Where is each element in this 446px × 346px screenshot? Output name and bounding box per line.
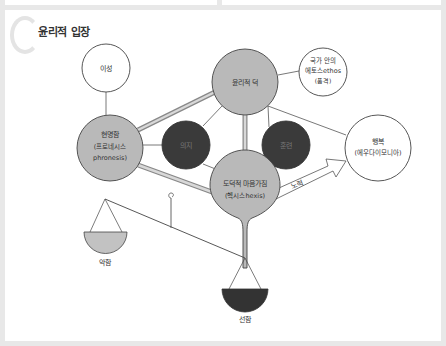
svg-text:행복: 행복: [372, 137, 385, 146]
svg-text:도덕적 마음가짐: 도덕적 마음가짐: [223, 179, 267, 188]
svg-text:의지: 의지: [180, 141, 192, 150]
svg-text:훈련: 훈련: [280, 141, 292, 150]
svg-text:(헥시스hexis): (헥시스hexis): [225, 191, 265, 200]
right-pan-label: 선함: [239, 315, 252, 324]
node-ethos: 국가 안의 에토스ethos (품격): [299, 48, 347, 96]
svg-text:(에우다이모니아): (에우다이모니아): [354, 148, 401, 157]
node-moral-disposition: 도덕적 마음가짐 (헥시스hexis): [210, 150, 280, 268]
svg-text:국가 안의: 국가 안의: [310, 56, 336, 65]
hook-icon: [169, 193, 174, 198]
svg-text:phronesis): phronesis): [93, 154, 127, 162]
svg-text:(품격): (품격): [315, 77, 332, 85]
right-pan: [222, 289, 268, 312]
node-happiness: 행복 (에우다이모니아): [345, 115, 411, 181]
svg-text:(프로네시스: (프로네시스: [94, 142, 127, 151]
left-pan: [84, 232, 127, 254]
svg-text:에토스ethos: 에토스ethos: [305, 66, 342, 75]
ethics-diagram: 노력 이성 윤리적 덕 국가 안의 에토스ethos (품격) 현명함 (프로네…: [0, 0, 446, 346]
node-reason: 이성: [82, 44, 130, 92]
svg-text:윤리적 덕: 윤리적 덕: [232, 78, 258, 87]
left-pan-label: 악함: [99, 258, 112, 267]
node-will: 의지: [162, 121, 210, 169]
svg-text:현명함: 현명함: [101, 130, 120, 139]
node-ethical-virtue: 윤리적 덕: [212, 49, 278, 115]
svg-text:이성: 이성: [100, 64, 112, 73]
node-prudence: 현명함 (프로네시스 phronesis): [77, 115, 143, 181]
